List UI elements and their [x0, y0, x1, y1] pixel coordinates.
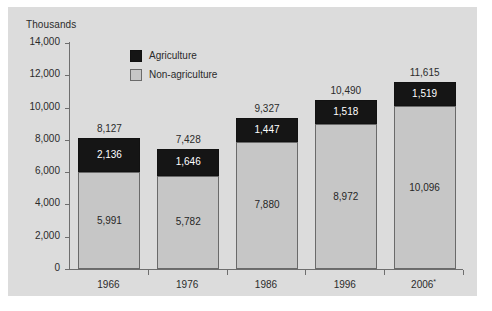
x-axis-tick-mark: [305, 270, 306, 275]
x-axis-category-label: 1996: [305, 279, 384, 290]
x-axis-tick-mark: [384, 270, 385, 275]
x-axis-tick-mark: [463, 270, 464, 275]
bar-value-label-agriculture: 1,519: [395, 88, 455, 99]
bar-segment-agriculture[interactable]: 1,447: [236, 118, 298, 141]
y-axis-tick-label: 4,000: [35, 197, 60, 208]
bar-segment-non-agriculture[interactable]: 8,972: [315, 124, 377, 269]
y-axis-tick-label: 2,000: [35, 230, 60, 241]
bar-total-label: 9,327: [236, 103, 298, 114]
bar-segment-non-agriculture[interactable]: 7,880: [236, 142, 298, 269]
chart-legend: Agriculture Non-agriculture: [130, 49, 217, 87]
x-axis-category-text: 1976: [176, 279, 198, 290]
y-axis-tick-label: 8,000: [35, 133, 60, 144]
chart-panel: Thousands 14,00012,00010,0008,0006,0004,…: [8, 7, 477, 296]
bar-value-label-non-agriculture: 7,880: [237, 199, 297, 210]
bar-segment-agriculture[interactable]: 2,136: [78, 138, 140, 172]
x-axis-tick-mark: [227, 270, 228, 275]
x-axis-category-text: 1996: [334, 279, 356, 290]
x-axis-line: [69, 269, 463, 270]
x-axis-category-text: 1966: [97, 279, 119, 290]
bar-segment-non-agriculture[interactable]: 5,782: [157, 176, 219, 269]
y-axis-units-caption: Thousands: [26, 19, 76, 30]
bar-group[interactable]: 5,7821,6467,428: [157, 149, 219, 269]
bar-group[interactable]: 5,9912,1368,127: [78, 138, 140, 269]
bar-total-label: 7,428: [157, 134, 219, 145]
y-axis-tick-label: 6,000: [35, 165, 60, 176]
legend-item-agriculture: Agriculture: [130, 49, 217, 62]
chart-figure: Thousands 14,00012,00010,0008,0006,0004,…: [0, 0, 492, 311]
x-axis-category-footnote-marker: *: [433, 278, 436, 285]
bar-segment-non-agriculture[interactable]: 10,096: [394, 106, 456, 269]
bar-value-label-agriculture: 1,518: [316, 106, 376, 117]
bar-value-label-agriculture: 1,447: [237, 124, 297, 135]
y-axis-tick-label: 12,000: [29, 68, 60, 79]
non-agriculture-swatch-icon: [130, 69, 142, 81]
x-axis-category-label: 1976: [148, 279, 227, 290]
bar-value-label-non-agriculture: 5,991: [79, 215, 139, 226]
x-axis-category-text: 2006: [411, 279, 433, 290]
bar-value-label-non-agriculture: 5,782: [158, 216, 218, 227]
bar-value-label-agriculture: 1,646: [158, 156, 218, 167]
bar-segment-agriculture[interactable]: 1,646: [157, 149, 219, 176]
bar-total-label: 11,615: [394, 67, 456, 78]
x-axis-category-label: 1986: [227, 279, 306, 290]
bar-total-label: 10,490: [315, 85, 377, 96]
legend-label-agriculture: Agriculture: [149, 50, 197, 61]
y-axis-tick-label: 10,000: [29, 101, 60, 112]
bar-total-label: 8,127: [78, 123, 140, 134]
legend-item-non-agriculture: Non-agriculture: [130, 68, 217, 81]
bar-group[interactable]: 8,9721,51810,490: [315, 100, 377, 269]
bar-group[interactable]: 7,8801,4479,327: [236, 118, 298, 269]
bar-segment-agriculture[interactable]: 1,519: [394, 82, 456, 107]
y-axis-tick-label: 0: [54, 262, 60, 273]
bar-group[interactable]: 10,0961,51911,615: [394, 82, 456, 269]
bar-segment-non-agriculture[interactable]: 5,991: [78, 172, 140, 269]
bar-segment-agriculture[interactable]: 1,518: [315, 100, 377, 125]
agriculture-swatch-icon: [130, 50, 142, 62]
y-axis-tick-label: 14,000: [29, 36, 60, 47]
legend-label-non-agriculture: Non-agriculture: [149, 69, 217, 80]
y-axis-tick-mark: [65, 269, 70, 270]
x-axis-category-text: 1986: [255, 279, 277, 290]
x-axis-category-label: 2006*: [384, 279, 463, 290]
x-axis-category-label: 1966: [69, 279, 148, 290]
x-axis-tick-mark: [148, 270, 149, 275]
bar-value-label-non-agriculture: 8,972: [316, 191, 376, 202]
bar-value-label-non-agriculture: 10,096: [395, 182, 455, 193]
plot-area: 5,9912,1368,1275,7821,6467,4287,8801,447…: [70, 43, 462, 269]
bar-value-label-agriculture: 2,136: [79, 149, 139, 160]
